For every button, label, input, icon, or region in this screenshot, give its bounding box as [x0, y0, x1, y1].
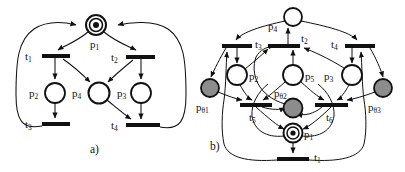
label-place-p5: p5 [305, 70, 315, 84]
transition-t1 [42, 54, 70, 58]
arc-ptheta3-t6 [347, 92, 375, 100]
label-place-ptheta2: pθ2 [274, 87, 287, 101]
panel-b: p4 p2 p5 p3 pθ1 pθ2 pθ3 p1 t3 t2 t4 t5 t… [196, 8, 392, 165]
label-transition-t4: t4 [111, 119, 118, 133]
panel-a-places [45, 15, 151, 104]
place-p2 [45, 83, 65, 103]
label-transition-t2: t2 [301, 32, 308, 46]
arc-t5-ptheta2 [262, 107, 285, 109]
arc-t5-p1 [256, 107, 284, 129]
label-place-p4: p4 [268, 20, 278, 34]
arc-t1-p4 [63, 59, 90, 82]
arc-p1-t2 [104, 32, 136, 50]
label-transition-t2: t2 [111, 51, 118, 65]
label-place-p3: p3 [117, 87, 127, 101]
label-transition-t6: t6 [326, 111, 333, 125]
label-transition-t3: t3 [25, 118, 32, 132]
label-place-p3: p3 [324, 70, 334, 84]
arc-p4-t4 [301, 21, 357, 40]
transition-t6 [315, 103, 348, 107]
label-transition-t1: t1 [314, 151, 321, 165]
place-p2 [227, 65, 247, 85]
arc-p4-t3 [236, 21, 285, 40]
label-transition-t3: t3 [255, 38, 262, 52]
place-p3 [342, 65, 362, 85]
place-p4 [89, 83, 110, 104]
panel-b-places [201, 8, 392, 143]
place-p3 [131, 83, 151, 103]
label-transition-t5: t5 [249, 111, 256, 125]
label-place-ptheta3: pθ3 [368, 101, 381, 115]
panel-b-caption: b) [210, 140, 220, 153]
arc-p3-t6 [337, 85, 349, 100]
petri-net-svg: p1 p2 p4 p3 t1 t2 t3 t4 a) [0, 0, 405, 172]
label-place-p4: p4 [72, 87, 82, 101]
place-ptheta3 [374, 79, 392, 97]
transition-t3 [42, 122, 70, 126]
arc-t4-p1 [118, 22, 186, 127]
arc-p1-t1 [58, 32, 88, 50]
label-place-ptheta1: pθ1 [196, 101, 209, 115]
place-ptheta1 [201, 79, 219, 97]
place-p1-token [290, 130, 295, 135]
arc-p5-t6 [301, 82, 324, 100]
transition-t1 [277, 157, 309, 161]
arc-t3-ptheta1 [211, 48, 226, 77]
panel-a-arcs [16, 22, 186, 127]
label-place-p1: p1 [304, 128, 314, 142]
panel-a-labels: p1 p2 p4 p3 t1 t2 t3 t4 a) [25, 38, 127, 156]
arc-p3-t2 [304, 48, 344, 68]
arc-t2-p4 [108, 60, 133, 82]
arc-p2-t5 [240, 85, 252, 100]
transition-t4 [126, 123, 160, 127]
arc-p4-t4 [107, 100, 131, 119]
arc-t4-ptheta3 [370, 48, 383, 77]
arc-t3-p1 [16, 22, 76, 126]
transition-t2 [268, 44, 300, 48]
transition-t2 [126, 55, 155, 59]
arc-p2-t2 [245, 49, 268, 69]
transition-t4 [345, 44, 375, 48]
transition-t3 [222, 44, 252, 48]
label-place-p1: p1 [90, 38, 100, 52]
petri-net-figure: p1 p2 p4 p3 t1 t2 t3 t4 a) [0, 0, 405, 172]
label-place-p2: p2 [249, 70, 259, 84]
label-place-p2: p2 [29, 87, 39, 101]
label-transition-t4: t4 [331, 38, 338, 52]
place-p1-token [93, 22, 99, 28]
panel-a-caption: a) [90, 143, 99, 156]
arc-ptheta1-t5 [218, 92, 242, 100]
place-ptheta2 [284, 99, 303, 118]
transition-t5 [240, 103, 272, 107]
label-transition-t1: t1 [25, 50, 32, 64]
panel-a: p1 p2 p4 p3 t1 t2 t3 t4 a) [16, 15, 186, 156]
place-p4 [284, 8, 302, 26]
place-p5 [283, 65, 303, 85]
